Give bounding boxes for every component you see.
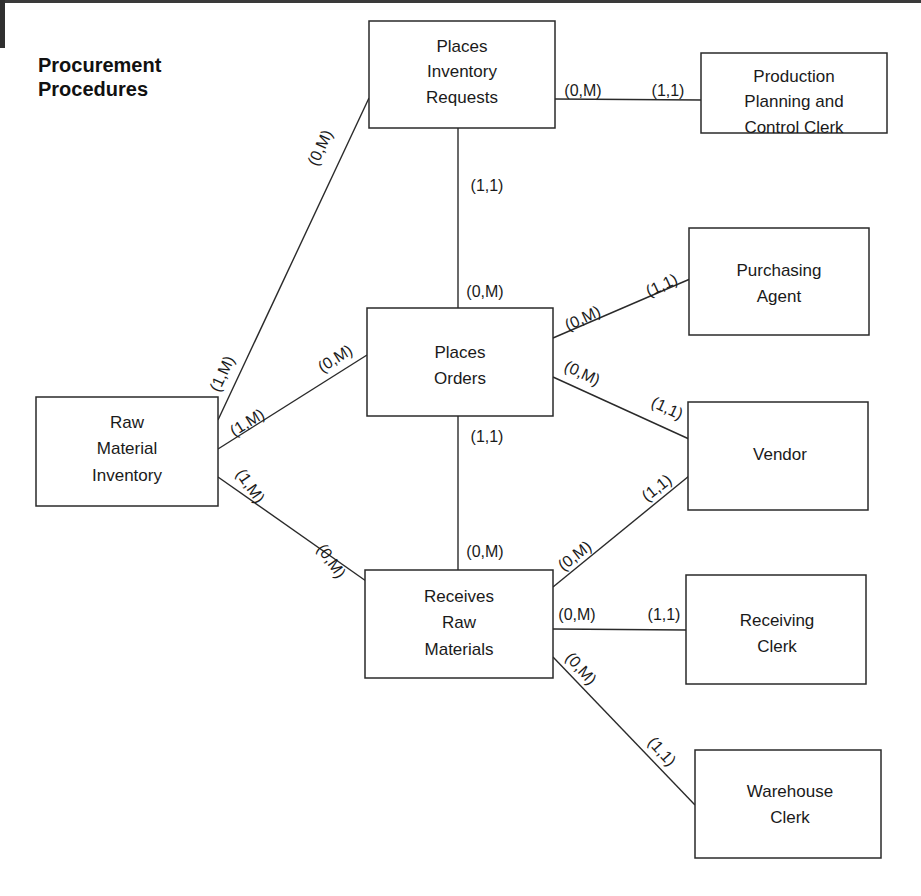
entity-label-line: Receives	[424, 587, 494, 606]
entity-label-line: Places	[434, 343, 485, 362]
entity-label-line: Vendor	[753, 445, 807, 464]
entity-label-line: Inventory	[427, 62, 497, 81]
cardinality-label: (0,M)	[564, 82, 601, 99]
entity-label-line: Planning and	[744, 92, 843, 111]
entity-receiving-clerk[interactable]: Receiving Clerk	[686, 575, 866, 684]
cardinality-label: (0,M)	[466, 543, 503, 560]
edges	[218, 98, 701, 805]
cardinality-label: (1,1)	[471, 428, 504, 445]
entity-raw-material-inventory[interactable]: Raw Material Inventory	[36, 397, 218, 506]
entity-label-line: Orders	[434, 369, 486, 388]
cardinality-label: (1,1)	[652, 82, 685, 99]
cardinality-label: (1,1)	[638, 471, 674, 505]
entity-purchasing-agent[interactable]: Purchasing Agent	[689, 228, 869, 335]
entity-label-line: Control Clerk	[744, 118, 844, 137]
entity-label-line: Purchasing	[736, 261, 821, 280]
entity-label-line: Material	[97, 439, 157, 458]
entity-places-inventory-requests[interactable]: Places Inventory Requests	[369, 21, 555, 128]
entity-warehouse-clerk[interactable]: Warehouse Clerk	[695, 750, 881, 858]
cardinality-label: (0,M)	[315, 341, 356, 375]
cardinality-label: (1,M)	[233, 466, 268, 506]
cardinality-label: (0,M)	[304, 127, 335, 168]
cardinality-label: (0,M)	[558, 606, 595, 623]
cardinality-label: (0,M)	[466, 283, 503, 300]
entity-vendor[interactable]: Vendor	[688, 402, 868, 510]
entity-label-line: Raw	[110, 413, 145, 432]
entity-label-line: Places	[436, 37, 487, 56]
cardinality-label: (1,1)	[643, 270, 680, 299]
edge-receives-vendor	[553, 476, 689, 587]
edge-pir-production	[555, 99, 701, 100]
cardinality-label: (1,M)	[227, 405, 268, 439]
cardinality-label: (1,1)	[648, 606, 681, 623]
cardinality-label: (1,1)	[645, 733, 680, 769]
entity-receives-raw-materials[interactable]: Receives Raw Materials	[365, 570, 553, 678]
entity-label-line: Requests	[426, 88, 498, 107]
cardinality-label: (1,1)	[471, 177, 504, 194]
entity-places-orders[interactable]: Places Orders	[367, 308, 553, 416]
cardinality-label: (0,M)	[555, 537, 595, 573]
cardinality-label: (0,M)	[562, 302, 603, 333]
edge-rmi-pir	[218, 98, 369, 420]
entity-label-line: Clerk	[770, 808, 810, 827]
cardinality-label: (0,M)	[314, 541, 349, 581]
cardinality-label: (0,M)	[562, 649, 600, 688]
edge-receives-receiving	[553, 629, 687, 630]
cardinality-label: (1,1)	[649, 393, 686, 422]
edge-receives-warehouse	[553, 657, 695, 805]
entity-label-line: Agent	[757, 287, 802, 306]
er-diagram: Places Inventory Requests Production Pla…	[0, 0, 921, 896]
entity-label-line: Clerk	[757, 637, 797, 656]
entity-production-clerk[interactable]: Production Planning and Control Clerk	[701, 53, 887, 137]
entity-label-line: Production	[753, 67, 834, 86]
entity-label-line: Inventory	[92, 466, 162, 485]
entity-label-line: Receiving	[740, 611, 815, 630]
entity-label-line: Warehouse	[747, 782, 833, 801]
entity-label-line: Materials	[425, 640, 494, 659]
entity-label-line: Raw	[442, 613, 477, 632]
